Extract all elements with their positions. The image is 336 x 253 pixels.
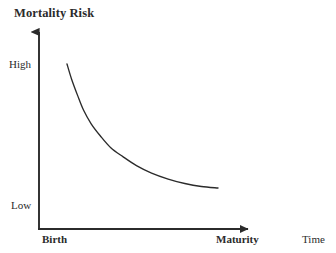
- x-axis-tick-label-birth: Birth: [42, 234, 67, 245]
- y-axis-tick-label-high: High: [9, 59, 31, 70]
- x-axis-tick-label-maturity: Maturity: [216, 234, 259, 245]
- chart-figure: Mortality Risk High Low Birth Maturity T…: [0, 0, 336, 253]
- mortality-risk-curve: [67, 64, 218, 188]
- page-title: Mortality Risk: [14, 7, 94, 20]
- chart-plot-area: [0, 0, 336, 253]
- y-axis-tick-label-low: Low: [11, 200, 31, 211]
- x-axis-title: Time: [302, 234, 325, 245]
